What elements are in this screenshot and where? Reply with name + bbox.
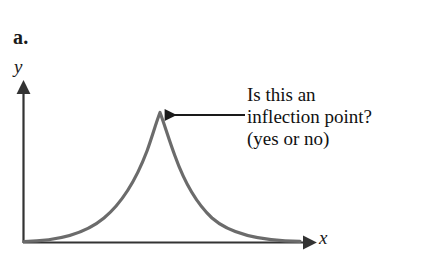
figure-container: a. y x Is this an inflection point? (yes… — [0, 0, 429, 280]
callout-line-2: inflection point? — [247, 106, 422, 128]
callout-line-3: (yes or no) — [247, 128, 422, 150]
callout-text: Is this an inflection point? (yes or no) — [247, 84, 422, 150]
callout-line-1: Is this an — [247, 84, 422, 106]
